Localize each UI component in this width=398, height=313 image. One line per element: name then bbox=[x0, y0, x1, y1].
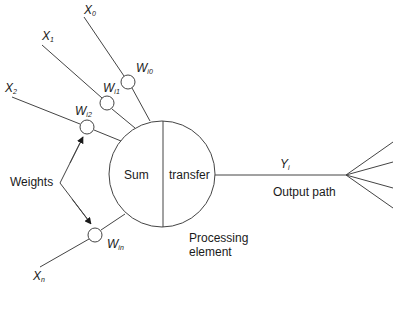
input-x0: X0 Wi0 bbox=[83, 3, 153, 121]
sum-label: Sum bbox=[124, 168, 149, 182]
weight-node-i1 bbox=[100, 96, 114, 110]
weights-arrow-up bbox=[70, 137, 83, 163]
weight-node-i0 bbox=[121, 75, 135, 89]
input-x1-label: X1 bbox=[41, 29, 54, 43]
input-xn-label: Xn bbox=[32, 269, 45, 283]
weight-i1-label: Wi1 bbox=[103, 81, 120, 95]
weights-label: Weights bbox=[10, 175, 53, 189]
fanout-branch-1 bbox=[346, 142, 393, 175]
neuron-diagram: X0 Wi0 X1 Wi1 X2 Wi2 Xn Win Weights Sum bbox=[0, 0, 398, 313]
weights-arrow-down bbox=[72, 199, 91, 224]
fanout-branch-3 bbox=[346, 175, 393, 188]
transfer-label: transfer bbox=[169, 168, 210, 182]
weight-i2-label: Wi2 bbox=[75, 104, 92, 118]
weight-node-in bbox=[88, 228, 102, 242]
output-path-label: Output path bbox=[273, 185, 336, 199]
output-y-label: Yi bbox=[280, 157, 290, 171]
processing-element: Sum transfer Processing element bbox=[109, 121, 248, 259]
processing-caption-line2: element bbox=[189, 245, 232, 259]
weight-node-i2 bbox=[80, 120, 94, 134]
weights-annotation: Weights bbox=[10, 137, 91, 224]
weight-i0-label: Wi0 bbox=[136, 61, 153, 75]
weight-in-label: Win bbox=[107, 237, 124, 251]
processing-caption-line1: Processing bbox=[189, 231, 248, 245]
fanout-branch-4 bbox=[346, 175, 393, 208]
input-x0-label: X0 bbox=[83, 3, 96, 17]
input-xn: Xn Win bbox=[32, 214, 125, 283]
output-path: Yi Output path bbox=[215, 142, 393, 208]
input-x2-label: X2 bbox=[4, 81, 17, 95]
fanout-branch-2 bbox=[346, 162, 393, 175]
